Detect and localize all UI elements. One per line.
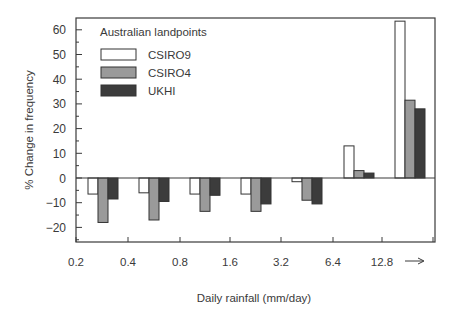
y-tick-label: 20 (53, 122, 67, 136)
bar-csiro9 (139, 178, 149, 193)
bar-csiro4 (149, 178, 159, 220)
bar-csiro4 (200, 178, 210, 211)
x-tick-label: 1.6 (222, 256, 238, 268)
bar-csiro4 (405, 100, 415, 178)
y-tick-label: 10 (53, 147, 67, 161)
bar-csiro9 (88, 178, 98, 194)
y-tick-label: −10 (46, 196, 67, 210)
y-axis-label: % Change in frequency (23, 70, 35, 190)
legend-swatch-csiro4 (101, 67, 136, 78)
y-tick-label: 50 (53, 48, 67, 62)
bar-csiro4 (354, 171, 364, 178)
bar-csiro4 (98, 178, 108, 222)
bar-ukhi (108, 178, 118, 199)
x-tick-label: 12.8 (371, 256, 393, 268)
x-tick-label: 3.2 (273, 256, 289, 268)
bar-csiro4 (251, 178, 261, 211)
legend-label-ukhi: UKHI (148, 85, 175, 97)
legend-label-csiro9: CSIRO9 (148, 49, 191, 61)
legend-title: Australian landpoints (100, 26, 207, 38)
bars-group (88, 21, 425, 222)
bar-csiro9 (190, 178, 200, 194)
bar-ukhi (159, 178, 169, 201)
bar-ukhi (364, 173, 374, 178)
legend: Australian landpointsCSIRO9CSIRO4UKHI (100, 26, 207, 97)
legend-swatch-csiro9 (101, 49, 136, 60)
y-tick-label: 0 (59, 172, 66, 186)
bar-chart: 6050403020100−10−200.20.40.81.63.26.412.… (0, 0, 453, 315)
x-tick-label: 0.8 (172, 256, 188, 268)
y-tick-label: −20 (46, 221, 67, 235)
bar-ukhi (312, 178, 322, 204)
y-tick-label: 30 (53, 97, 67, 111)
legend-label-csiro4: CSIRO4 (148, 67, 191, 79)
y-tick-label: 60 (53, 23, 67, 37)
x-tick-label: 6.4 (325, 256, 342, 268)
y-tick-label: 40 (53, 73, 67, 87)
x-axis-label: Daily rainfall (mm/day) (197, 292, 312, 304)
bar-csiro9 (395, 21, 405, 178)
bar-ukhi (415, 109, 425, 178)
bar-csiro9 (344, 146, 354, 178)
legend-swatch-ukhi (101, 85, 136, 96)
bar-ukhi (210, 178, 220, 195)
bar-csiro9 (241, 178, 251, 194)
x-tick-label: 0.2 (68, 256, 84, 268)
bar-ukhi (261, 178, 271, 204)
bar-csiro4 (302, 178, 312, 200)
x-tick-label: 0.4 (120, 256, 137, 268)
